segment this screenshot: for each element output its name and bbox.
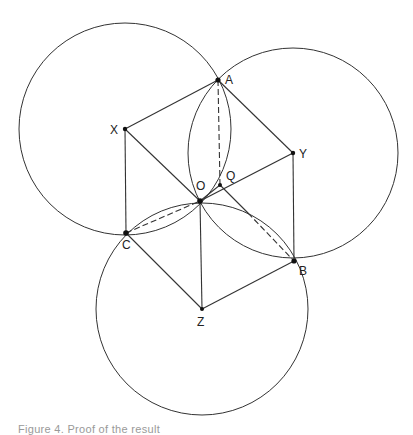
point-a <box>215 77 220 82</box>
point-x <box>123 127 127 131</box>
label-x: X <box>110 123 118 137</box>
point-o <box>197 198 203 204</box>
segment-yo <box>200 153 293 201</box>
point-y <box>291 151 295 155</box>
label-y: Y <box>299 147 307 161</box>
label-o: O <box>196 179 205 193</box>
segment-oz <box>200 201 202 309</box>
point-b <box>291 258 296 263</box>
label-z: Z <box>197 315 204 329</box>
label-q: Q <box>226 169 235 183</box>
segment-xa <box>125 80 218 129</box>
segment-zb <box>202 261 294 309</box>
figure-caption: Figure 4. Proof of the result <box>18 423 160 435</box>
label-b: B <box>299 264 307 278</box>
dashed-qb <box>248 213 294 261</box>
dashed-segments <box>126 80 294 261</box>
solid-segments <box>125 80 294 309</box>
label-a: A <box>225 73 233 87</box>
point-q <box>218 183 222 187</box>
label-c: C <box>122 238 131 252</box>
segment-cz <box>126 233 202 309</box>
segment-xc <box>125 129 126 233</box>
dashed-aq <box>218 80 220 185</box>
point-z <box>200 307 204 311</box>
segment-yb <box>293 153 294 261</box>
labels: A X Y O Q C B Z <box>110 73 307 329</box>
segment-ay <box>218 80 293 153</box>
point-c <box>123 230 129 236</box>
segment-qb <box>220 185 248 213</box>
points <box>123 77 297 311</box>
